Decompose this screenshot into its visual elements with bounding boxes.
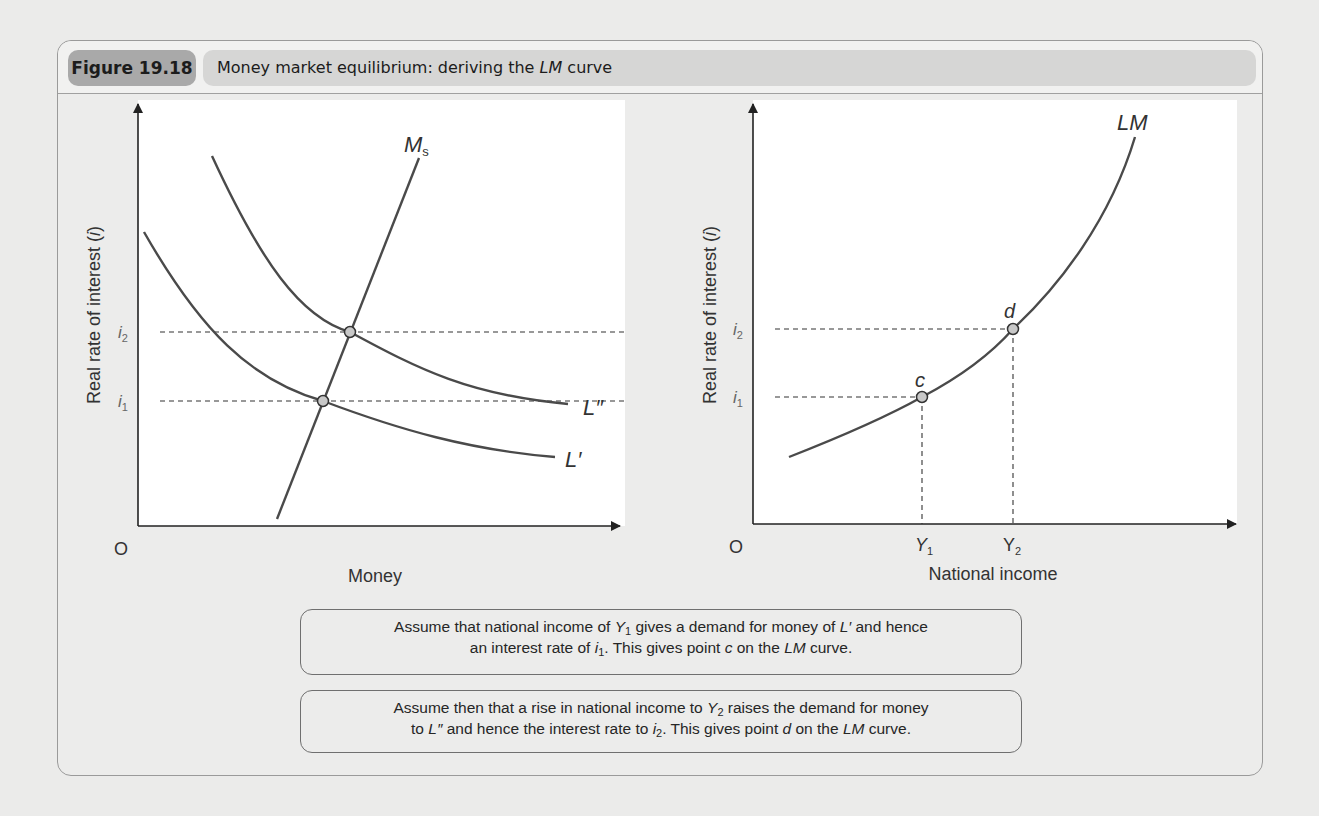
note1-line2: an interest rate of i1. This gives point… xyxy=(311,637,1011,658)
var-y: Y xyxy=(615,618,625,635)
y1-tick: Y1 xyxy=(915,535,933,557)
right-x-axis-label: National income xyxy=(928,564,1057,584)
note1-line1: Assume that national income of Y1 gives … xyxy=(311,616,1011,637)
var-d: d xyxy=(783,720,792,737)
left-x-axis-label: Money xyxy=(348,566,402,586)
money-market-chart: Ms L″ L′ i2 i1 O Money Real rate of inte… xyxy=(84,100,625,586)
annotation-box-point-c: Assume that national income of Y1 gives … xyxy=(300,609,1022,675)
y2-tick: Y2 xyxy=(1003,535,1021,557)
text: on the xyxy=(791,720,843,737)
text: an interest rate of xyxy=(470,639,595,656)
point-c-label: c xyxy=(915,369,925,391)
text: and hence xyxy=(851,618,928,635)
point-d xyxy=(1008,324,1019,335)
var-lm: LM xyxy=(843,720,865,737)
lm-curve-chart: c d LM i2 i1 Y1 Y2 O National income Rea… xyxy=(700,100,1237,584)
left-origin-label: O xyxy=(114,539,128,559)
equilibrium-point-i2 xyxy=(345,327,356,338)
text: . This gives point xyxy=(604,639,724,656)
text: gives a demand for money of xyxy=(631,618,840,635)
note2-line2: to L″ and hence the interest rate to i2.… xyxy=(311,718,1011,739)
right-y-axis-label: Real rate of interest (i) xyxy=(700,226,720,404)
left-y-axis-label: Real rate of interest (i) xyxy=(84,226,104,404)
left-plot-area xyxy=(138,100,625,526)
point-d-label: d xyxy=(1004,300,1016,322)
var-l-double-prime: L″ xyxy=(428,720,442,737)
equilibrium-point-i1 xyxy=(318,396,329,407)
text: raises the demand for money xyxy=(724,699,929,716)
text: and hence the interest rate to xyxy=(442,720,652,737)
lm-label: LM xyxy=(1117,110,1148,135)
l-prime-label: L′ xyxy=(565,447,582,472)
text: to xyxy=(411,720,428,737)
left-i2-tick: i2 xyxy=(118,323,128,344)
text: on the xyxy=(732,639,784,656)
right-plot-area xyxy=(753,100,1237,524)
text: curve. xyxy=(864,720,911,737)
text: Assume that national income of xyxy=(394,618,615,635)
note2-line1: Assume then that a rise in national inco… xyxy=(311,697,1011,718)
text: . This gives point xyxy=(662,720,782,737)
var-y: Y xyxy=(707,699,717,716)
var-lm: LM xyxy=(784,639,806,656)
l-double-prime-label: L″ xyxy=(583,395,604,420)
left-i1-tick: i1 xyxy=(118,392,128,413)
annotation-box-point-d: Assume then that a rise in national inco… xyxy=(300,690,1022,753)
var-l-prime: L′ xyxy=(840,618,852,635)
point-c xyxy=(917,392,928,403)
right-i2-tick: i2 xyxy=(733,320,743,341)
text: curve. xyxy=(806,639,853,656)
right-i1-tick: i1 xyxy=(733,388,743,409)
text: Assume then that a rise in national inco… xyxy=(393,699,707,716)
right-origin-label: O xyxy=(729,537,743,557)
